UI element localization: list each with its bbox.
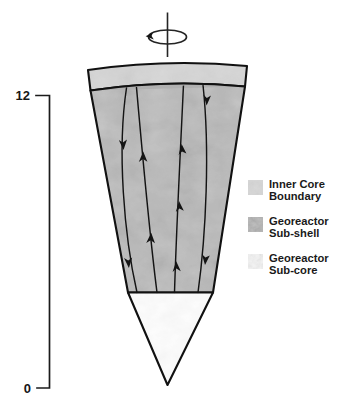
legend-label-1-line2: Boundary [269,190,322,202]
georeactor-sub-shell-region [80,80,260,300]
georeactor-sub-core-region [120,288,220,388]
legend-label-3-line1: Georeactor [269,252,329,264]
legend: Inner Core Boundary Georeactor Sub-shell… [248,178,329,276]
legend-label-2-line2: Sub-shell [269,227,319,239]
figure-root: 12 0 Inner Core Boundary Georeactor [0,0,345,413]
scale-top-label: 12 [16,88,30,103]
legend-label-3-line2: Sub-core [269,264,318,276]
legend-label-1-line1: Inner Core [269,178,325,190]
scale-bracket-line [36,96,50,389]
legend-label-2-line1: Georeactor [269,215,329,227]
legend-item-georeactor-sub-shell: Georeactor Sub-shell [248,215,329,239]
legend-item-georeactor-sub-core: Georeactor Sub-core [248,252,329,276]
legend-item-inner-core-boundary: Inner Core Boundary [248,178,325,202]
depth-scale-bracket: 12 0 [16,88,50,396]
scale-bottom-label: 0 [24,381,31,396]
rotation-axis-group [146,13,187,58]
inner-core-wedge-diagram: 12 0 Inner Core Boundary Georeactor [0,0,345,413]
